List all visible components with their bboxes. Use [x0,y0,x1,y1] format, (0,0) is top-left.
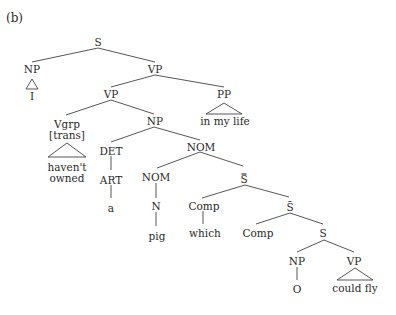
node-s-bar: S̄ [286,201,293,213]
leaf-pig: pig [149,230,166,242]
node-comp-2: Comp [242,227,273,239]
leaf-in-my-life: in my life [200,115,250,127]
triangle-vp-inner [337,268,373,280]
node-vp-top: VP [147,63,163,75]
leaf-could-fly: could fly [332,282,377,294]
node-nom-sub: NOM [142,171,171,183]
triangle-pp [206,103,242,114]
leaf-o: O [293,283,302,295]
node-comp-1: Comp [188,200,219,212]
syntax-tree-diagram: (b) [0,0,396,315]
node-nom-top: NOM [187,141,216,153]
figure-label: (b) [6,11,23,25]
leaf-owned: owned [49,172,84,184]
node-s-root: S [94,36,101,48]
triangle-np-subj [26,79,38,89]
node-s-double-bar: S̿ [240,173,247,185]
triangle-vgrp [48,143,86,157]
node-np-inner: NP [289,255,305,267]
node-np-subj: NP [24,63,40,75]
node-n: N [151,200,160,212]
leaf-which: which [189,227,221,239]
node-vp-mid: VP [103,88,119,100]
node-art: ART [99,174,122,186]
leaf-i: I [30,90,34,102]
node-vgrp-feature: [trans] [49,129,85,141]
leaf-a: a [108,202,114,214]
node-np-obj: NP [147,115,163,127]
node-s-inner: S [319,227,326,239]
node-pp: PP [217,88,231,100]
tree-nodes: S NP I VP VP PP in my life Vgrp [trans] … [24,36,378,295]
node-vp-inner: VP [346,255,362,267]
node-det: DET [99,145,122,157]
